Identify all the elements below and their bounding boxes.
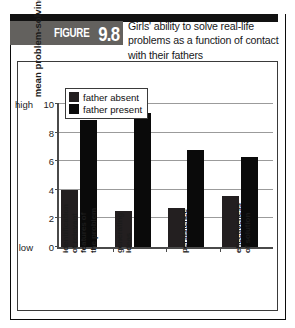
- legend-swatch-father-absent: [69, 92, 79, 102]
- bar-father-present: [187, 150, 204, 247]
- x-axis-category-label: generating ideas: [115, 181, 133, 253]
- x-axis-tick-mark: [220, 247, 221, 252]
- legend-item-father-present: father present: [69, 103, 142, 115]
- x-axis-tick-mark: [113, 247, 114, 252]
- frame-rule-left: [10, 14, 11, 320]
- figure-container: FIGURE 9.8 Girls' ability to solve real-…: [0, 0, 295, 328]
- figure-number-badge: FIGURE 9.8: [10, 21, 123, 45]
- bar-father-present: [134, 113, 151, 247]
- figure-number: 9.8: [98, 23, 119, 44]
- y-axis-tick-label: 6: [29, 156, 59, 167]
- y-axis-tick-label: 2: [29, 213, 59, 224]
- x-axis-tick-mark: [166, 247, 167, 252]
- frame-rule-right: [285, 14, 286, 320]
- legend-swatch-father-present: [69, 104, 79, 114]
- figure-label: FIGURE: [54, 26, 89, 40]
- x-axis-category-label: persistence: [180, 181, 189, 253]
- y-axis-tick-label: 4: [29, 185, 59, 196]
- y-axis-tick-label: 0: [29, 242, 59, 253]
- frame-rule-bottom: [10, 319, 286, 320]
- y-axis-tick-label: 8: [29, 128, 59, 139]
- y-axis-tick-label: 10: [29, 99, 59, 110]
- legend-label-father-present: father present: [83, 104, 142, 115]
- x-axis-category-label: identification of relevant features of t…: [61, 181, 98, 253]
- x-axis-category-label: effectiveness of solution: [234, 181, 252, 253]
- y-axis-high-label: high: [3, 99, 33, 110]
- figure-caption: Girls' ability to solve real-life proble…: [128, 19, 280, 62]
- y-axis-low-label: low: [3, 242, 33, 253]
- bar-group: [166, 104, 220, 247]
- y-axis-title: mean problem-solving score: [32, 0, 46, 106]
- legend-item-father-absent: father absent: [69, 91, 142, 103]
- legend-label-father-absent: father absent: [83, 92, 139, 103]
- chart-legend: father absent father present: [65, 88, 148, 119]
